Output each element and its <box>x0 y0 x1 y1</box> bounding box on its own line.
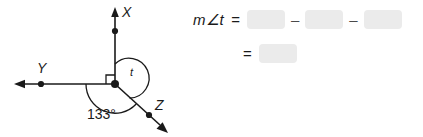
angle-t-label: t <box>130 66 134 78</box>
vertex-point <box>111 80 119 88</box>
ray-x-arrowhead <box>111 7 119 17</box>
ray-z-point <box>146 112 152 118</box>
angle-measure-label: 133° <box>87 106 116 122</box>
ray-z-label: Z <box>154 97 164 113</box>
ray-z-line <box>115 84 160 125</box>
ray-x: X <box>111 4 132 84</box>
ray-y-arrowhead <box>14 80 25 88</box>
angle-diagram: X Y Z <box>0 0 211 137</box>
equation-work-area: m∠t = – – = <box>193 0 423 137</box>
answer-blank-2[interactable] <box>305 10 343 29</box>
equals-sign-line-2: = <box>243 45 252 62</box>
minus-sign-1: – <box>291 11 299 28</box>
ray-z: Z <box>115 84 168 133</box>
ray-x-point <box>112 28 118 34</box>
ray-x-label: X <box>121 4 132 20</box>
angle-diagram-svg: X Y Z <box>0 0 211 137</box>
answer-blank-3[interactable] <box>364 10 402 29</box>
answer-blank-result[interactable] <box>259 44 297 63</box>
equation-line-2: = <box>236 44 297 63</box>
ray-y-point <box>38 81 44 87</box>
ray-y: Y <box>14 60 115 88</box>
worksheet-page: X Y Z <box>0 0 423 137</box>
equation-lhs-measure-of-angle-t: m∠t <box>193 11 224 29</box>
equation-line-1: m∠t = – – <box>193 10 402 29</box>
answer-blank-1[interactable] <box>247 10 285 29</box>
ray-y-label: Y <box>37 60 48 76</box>
angle-t-arc <box>115 58 149 98</box>
equals-sign-line-1: = <box>231 11 240 28</box>
minus-sign-2: – <box>349 11 357 28</box>
